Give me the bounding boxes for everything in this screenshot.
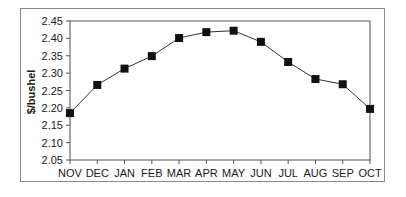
plot-border (70, 21, 370, 160)
x-tick-label: JUL (278, 167, 298, 179)
data-point-marker (121, 65, 129, 73)
y-tick-label: 2.40 (42, 32, 63, 44)
x-tick-label: MAR (167, 167, 192, 179)
x-tick-label: DEC (86, 167, 109, 179)
x-tick-label: FEB (141, 167, 162, 179)
x-tick-label: AUG (304, 167, 328, 179)
y-axis: 2.052.102.152.202.252.302.352.402.45 (42, 15, 70, 166)
data-point-marker (284, 58, 292, 66)
data-point-marker (66, 109, 74, 117)
data-point-marker (230, 27, 238, 35)
y-tick-label: 2.05 (42, 154, 63, 166)
data-point-marker (148, 52, 156, 60)
plot-area (70, 21, 370, 160)
data-point-marker (257, 38, 265, 46)
x-tick-label: MAY (222, 167, 246, 179)
x-axis: NOVDECJANFEBMARAPRMAYJUNJULAUGSEPOCT (58, 160, 382, 179)
x-tick-label: OCT (358, 167, 382, 179)
y-tick-label: 2.15 (42, 119, 63, 131)
y-tick-label: 2.10 (42, 137, 63, 149)
data-point-marker (202, 28, 210, 36)
x-tick-label: JUN (250, 167, 271, 179)
y-tick-label: 2.35 (42, 50, 63, 62)
y-tick-label: 2.25 (42, 85, 63, 97)
x-tick-label: JAN (114, 167, 135, 179)
x-tick-label: APR (195, 167, 218, 179)
x-tick-label: SEP (332, 167, 354, 179)
data-series (66, 27, 374, 117)
data-point-marker (366, 105, 374, 113)
line-chart: 2.052.102.152.202.252.302.352.402.45 NOV… (0, 0, 406, 197)
data-point-marker (93, 81, 101, 89)
data-point-marker (339, 80, 347, 88)
series-line (70, 31, 370, 113)
data-point-marker (175, 34, 183, 42)
x-tick-label: NOV (58, 167, 83, 179)
y-tick-label: 2.45 (42, 15, 63, 27)
y-axis-title: $/bushel (25, 70, 37, 115)
y-tick-label: 2.30 (42, 67, 63, 79)
data-point-marker (311, 75, 319, 83)
y-tick-label: 2.20 (42, 102, 63, 114)
